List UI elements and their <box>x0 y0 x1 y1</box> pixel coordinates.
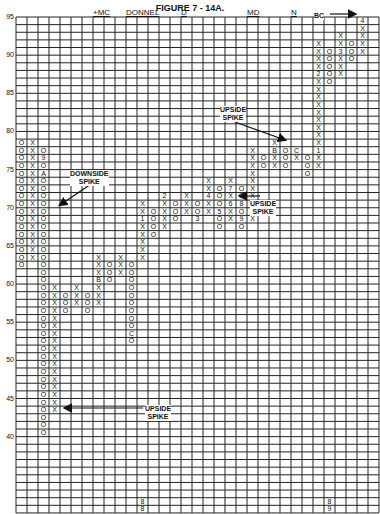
pf-cell: 8 <box>324 498 335 506</box>
pf-cell: X <box>93 292 104 300</box>
pf-cell: O <box>302 162 313 170</box>
pf-cell: O <box>38 330 49 338</box>
pf-cell: X <box>159 200 170 208</box>
pf-cell: O <box>126 337 137 345</box>
pf-cell: O <box>38 185 49 193</box>
pf-cell: X <box>247 215 258 223</box>
pf-cell: X <box>49 299 60 307</box>
pf-cell: X <box>49 353 60 361</box>
pf-cell: X <box>27 208 38 216</box>
pf-cell: O <box>16 185 27 193</box>
pf-cell: X <box>27 185 38 193</box>
pf-cell: O <box>16 215 27 223</box>
pf-cell: O <box>38 406 49 414</box>
pf-cell: 9 <box>324 505 335 513</box>
pf-cell: X <box>137 208 148 216</box>
pf-cell: O <box>346 48 357 56</box>
pf-cell: O <box>16 177 27 185</box>
pf-cell: 4 <box>203 192 214 200</box>
pf-cell: O <box>302 154 313 162</box>
pf-cell: X <box>247 192 258 200</box>
pf-cell: X <box>137 200 148 208</box>
pf-cell: X <box>49 368 60 376</box>
pf-cell: O <box>16 139 27 147</box>
pf-cell: 1 <box>313 147 324 155</box>
pf-cell: O <box>170 200 181 208</box>
annotation-label: UPSIDESPIKE <box>250 200 276 216</box>
pf-cell: X <box>27 231 38 239</box>
pf-cell: O <box>214 223 225 231</box>
pf-cell: O <box>126 269 137 277</box>
pf-cell: O <box>38 368 49 376</box>
pf-cell: X <box>49 292 60 300</box>
pf-cell: O <box>60 307 71 315</box>
pf-cell: X <box>27 223 38 231</box>
pf-cell: X <box>137 246 148 254</box>
pf-cell: O <box>126 292 137 300</box>
pf-cell: X <box>225 215 236 223</box>
pf-cell: X <box>93 284 104 292</box>
pf-cell: X <box>137 223 148 231</box>
pf-cell: O <box>148 231 159 239</box>
pf-cell: X <box>247 147 258 155</box>
pf-cell: X <box>137 238 148 246</box>
pf-cell: O <box>38 223 49 231</box>
pf-cell: X <box>335 55 346 63</box>
pf-cell: X <box>357 40 368 48</box>
pf-cell: X <box>247 170 258 178</box>
pf-cell: 8 <box>236 200 247 208</box>
pf-cell: B <box>93 276 104 284</box>
pf-cell: O <box>38 215 49 223</box>
pf-cell: X <box>313 116 324 124</box>
pf-cell: O <box>148 215 159 223</box>
pf-cell: O <box>16 208 27 216</box>
pf-cell: O <box>324 70 335 78</box>
pf-cell: C <box>291 147 302 155</box>
pf-cell: X <box>27 147 38 155</box>
pf-cell: X <box>313 131 324 139</box>
pf-cell: X <box>159 223 170 231</box>
pf-cell: O <box>38 353 49 361</box>
pf-cell: X <box>49 330 60 338</box>
pf-cell: X <box>49 284 60 292</box>
pf-cell: X <box>115 269 126 277</box>
pf-cell: O <box>214 215 225 223</box>
pf-cell: O <box>82 299 93 307</box>
pf-cell: X <box>49 322 60 330</box>
pf-cell: O <box>126 276 137 284</box>
pf-cell: X <box>71 299 82 307</box>
pf-cell: O <box>16 200 27 208</box>
pf-cell: X <box>203 208 214 216</box>
pf-cell: X <box>203 185 214 193</box>
pf-cell: X <box>357 25 368 33</box>
pf-cell: X <box>335 32 346 40</box>
pf-cell: O <box>236 223 247 231</box>
pf-cell: X <box>27 154 38 162</box>
pf-cell: X <box>203 200 214 208</box>
pf-cell: O <box>324 63 335 71</box>
pf-cell: O <box>126 307 137 315</box>
pf-cell: O <box>38 391 49 399</box>
annotation-label: UPSIDESPIKE <box>145 405 171 421</box>
pf-cell: X <box>313 139 324 147</box>
pf-cell: O <box>38 147 49 155</box>
pf-cell: X <box>335 63 346 71</box>
pf-cell: O <box>324 55 335 63</box>
pf-cell: O <box>16 254 27 262</box>
pf-cell: O <box>38 162 49 170</box>
pf-cell: X <box>49 307 60 315</box>
pf-cell: X <box>335 70 346 78</box>
pf-cell: X <box>27 200 38 208</box>
pf-cell: X <box>27 238 38 246</box>
pf-cell: O <box>302 170 313 178</box>
pf-cell: O <box>214 200 225 208</box>
pf-cell: O <box>38 276 49 284</box>
pf-cell: X <box>313 124 324 132</box>
pf-cell: X <box>49 391 60 399</box>
pf-cell: X <box>27 139 38 147</box>
pf-cell: 6 <box>225 200 236 208</box>
pf-cell: X <box>181 200 192 208</box>
pf-cell: 1 <box>137 215 148 223</box>
pf-cell: O <box>82 307 93 315</box>
pf-cell: O <box>214 185 225 193</box>
